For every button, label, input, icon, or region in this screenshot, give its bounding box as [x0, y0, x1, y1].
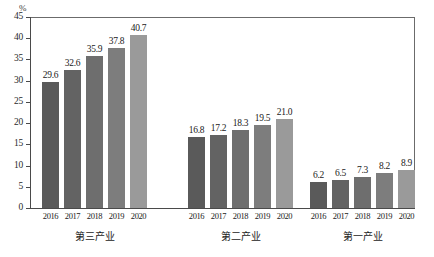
- bar: [210, 135, 227, 208]
- y-tick-label: 10: [0, 160, 23, 170]
- y-tick-label: 40: [0, 32, 23, 42]
- bar: [130, 35, 147, 208]
- bar-value-label: 29.6: [35, 70, 66, 80]
- y-tick-mark: [26, 81, 30, 82]
- group-label: 第三产业: [12, 228, 177, 243]
- y-tick-label: 35: [0, 53, 23, 63]
- y-tick-label: 45: [0, 11, 23, 21]
- bar: [86, 56, 103, 208]
- bar-value-label: 40.7: [123, 23, 154, 33]
- bar: [108, 48, 125, 208]
- y-tick-mark: [26, 123, 30, 124]
- bar-value-label: 8.9: [391, 158, 422, 168]
- x-tick-label: 2020: [271, 211, 298, 221]
- bar: [398, 170, 415, 208]
- bar: [232, 130, 249, 208]
- y-tick-label: 5: [0, 181, 23, 191]
- y-tick-mark: [26, 102, 30, 103]
- bar-value-label: 21.0: [269, 107, 300, 117]
- y-axis-line: [30, 17, 31, 208]
- x-axis-line: [30, 208, 415, 209]
- bar: [332, 180, 349, 208]
- y-tick-mark: [26, 144, 30, 145]
- bar: [64, 70, 81, 208]
- bar-value-label: 32.6: [57, 58, 88, 68]
- x-tick-label: 2020: [393, 211, 420, 221]
- bar: [254, 125, 271, 208]
- bar: [376, 173, 393, 208]
- group-label: 第一产业: [280, 228, 434, 243]
- bar: [310, 182, 327, 208]
- bar: [354, 177, 371, 208]
- x-tick-label: 2020: [125, 211, 152, 221]
- y-tick-label: 15: [0, 138, 23, 148]
- bar: [188, 137, 205, 208]
- y-tick-mark: [26, 59, 30, 60]
- y-tick-label: 25: [0, 96, 23, 106]
- y-tick-label: 0: [0, 202, 23, 212]
- y-tick-mark: [26, 17, 30, 18]
- bar-chart: % 454035302520151050 29.632.635.937.840.…: [0, 0, 434, 257]
- bar: [276, 119, 293, 208]
- y-tick-label: 30: [0, 75, 23, 85]
- bar: [42, 82, 59, 208]
- y-tick-mark: [26, 208, 30, 209]
- y-tick-label: 20: [0, 117, 23, 127]
- y-tick-mark: [26, 187, 30, 188]
- bar-value-label: 37.8: [101, 36, 132, 46]
- y-tick-mark: [26, 38, 30, 39]
- y-tick-mark: [26, 166, 30, 167]
